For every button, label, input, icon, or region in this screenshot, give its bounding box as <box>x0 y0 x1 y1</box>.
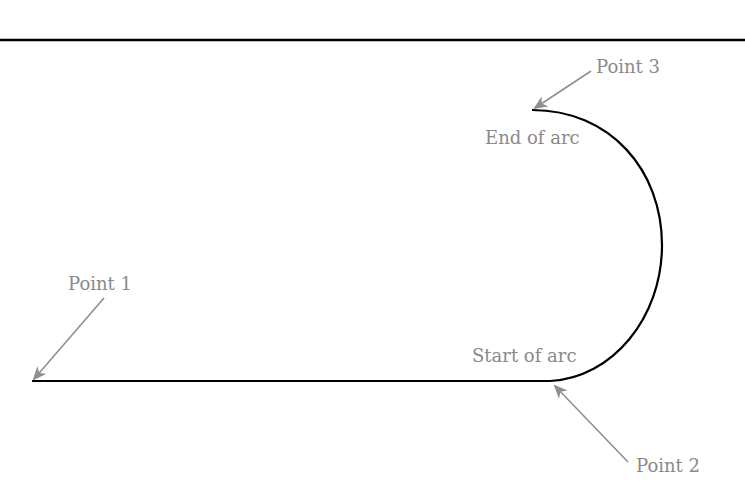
point1-arrow-icon <box>34 298 104 379</box>
diagram-canvas: Point 1 Point 2 Point 3 End of arc Start… <box>0 0 745 504</box>
end-of-arc-label: End of arc <box>485 127 580 148</box>
point3-arrow-icon <box>535 71 591 108</box>
point3-label: Point 3 <box>596 56 660 77</box>
point2-label: Point 2 <box>636 455 700 476</box>
point2-arrow-icon <box>555 386 628 462</box>
arc-segment <box>532 110 662 381</box>
start-of-arc-label: Start of arc <box>472 345 577 366</box>
point1-label: Point 1 <box>68 273 132 294</box>
